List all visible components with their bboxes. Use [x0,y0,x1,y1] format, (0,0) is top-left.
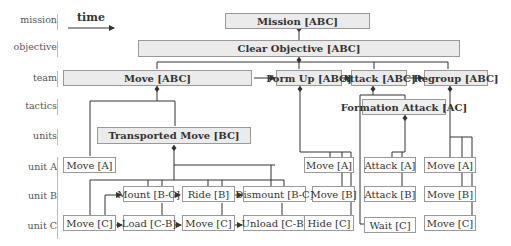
node-move-a3: Move [A] [424,157,476,173]
node-move-b1: Move [B] [312,186,355,202]
node-ride: Ride [B] [182,186,235,202]
node-unload: Unload [C-B] [243,215,306,231]
node-transported-move: Transported Move [BC] [97,127,251,144]
node-mission: Mission [ABC] [225,13,370,29]
node-move-b2: Move [B] [424,186,476,202]
node-mount: Mount [B-C] [123,186,174,202]
node-move-a1: Move [A] [63,157,116,173]
node-move-c2: Move [C] [182,215,235,231]
node-attack-abc: Attack [ABC] [351,70,407,86]
node-move-c1: Move [C] [63,215,116,231]
node-formation-attack: Formation Attack [AC] [362,99,446,115]
connector-lines [0,0,511,246]
node-attack-b: Attack [B] [364,186,416,202]
node-attack-a: Attack [A] [364,157,416,173]
node-move-abc: Move [ABC] [63,70,252,86]
node-wait: Wait [C] [364,217,416,233]
node-hide: Hide [C] [304,215,354,231]
node-move-c3: Move [C] [424,215,476,231]
node-form-up: Form Up [ABC] [276,70,342,86]
node-dismount: Dismount [B-C] [243,186,306,202]
node-move-a2: Move [A] [304,157,354,173]
node-load: Load [C-B] [123,215,175,231]
node-clear-objective: Clear Objective [ABC] [138,40,460,57]
node-regroup: Regroup [ABC] [424,70,488,86]
